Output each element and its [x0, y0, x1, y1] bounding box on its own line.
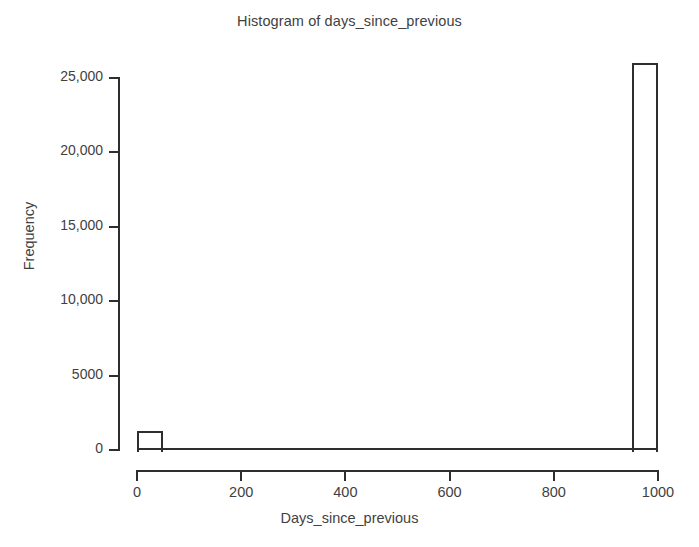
y-tick-mark: [109, 151, 120, 153]
x-tick-mark: [240, 470, 242, 481]
y-tick-mark: [109, 77, 120, 79]
x-tick-mark: [657, 470, 659, 481]
page-caption-cutoff: [0, 538, 699, 547]
x-tick-label: 0: [97, 484, 177, 500]
chart-title: Histogram of days_since_previous: [0, 13, 699, 29]
y-tick-label: 25,000: [0, 68, 103, 84]
x-tick-label: 1000: [618, 484, 698, 500]
histogram-bar: [632, 63, 658, 452]
plot-area: [137, 62, 658, 450]
x-axis-line: [137, 470, 658, 472]
x-tick-label: 400: [305, 484, 385, 500]
y-axis-label: Frequency: [21, 176, 37, 296]
x-tick-mark: [344, 470, 346, 481]
bar-baseline: [137, 448, 658, 450]
y-tick-mark: [109, 226, 120, 228]
y-tick-label: 0: [0, 440, 103, 456]
y-tick-mark: [109, 300, 120, 302]
x-tick-label: 200: [201, 484, 281, 500]
y-tick-label: 10,000: [0, 291, 103, 307]
x-tick-label: 800: [514, 484, 594, 500]
y-tick-label: 5000: [0, 366, 103, 382]
y-tick-label: 15,000: [0, 217, 103, 233]
x-tick-label: 600: [410, 484, 490, 500]
y-tick-mark: [109, 449, 120, 451]
y-tick-mark: [109, 375, 120, 377]
y-axis-line: [118, 78, 120, 450]
y-tick-label: 20,000: [0, 142, 103, 158]
x-tick-mark: [553, 470, 555, 481]
histogram-figure: Histogram of days_since_previous Frequen…: [0, 0, 699, 547]
x-tick-mark: [449, 470, 451, 481]
x-axis-label: Days_since_previous: [0, 510, 699, 526]
x-tick-mark: [136, 470, 138, 481]
